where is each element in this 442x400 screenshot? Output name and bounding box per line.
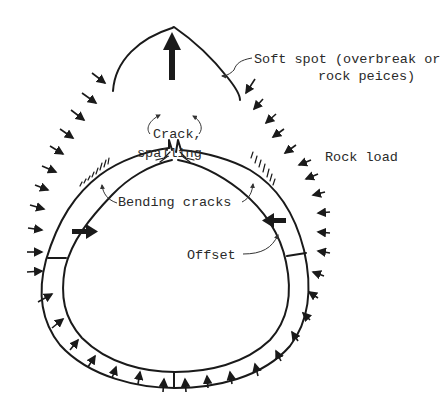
lining-inner — [63, 160, 289, 372]
right-joint — [287, 253, 306, 256]
label-bending-cracks: Bending cracks — [118, 195, 231, 210]
label-spalling: spalling — [137, 146, 202, 161]
tunnel-lining-diagram: Soft spot (overbreak or rock peices) Cra… — [0, 0, 442, 400]
bending-leader-left — [102, 185, 117, 203]
label-crack: Crack, — [153, 127, 202, 142]
offset-leader — [243, 235, 278, 254]
label-rock-load: Rock load — [325, 150, 398, 165]
loosening-arrow-icon — [163, 32, 181, 80]
label-soft-spot-1: Soft spot (overbreak or — [254, 52, 440, 67]
label-soft-spot-2: rock peices) — [318, 69, 415, 84]
soft-spot-outline — [113, 27, 240, 100]
label-offset: Offset — [187, 248, 236, 263]
soft-spot-leader — [222, 58, 252, 76]
